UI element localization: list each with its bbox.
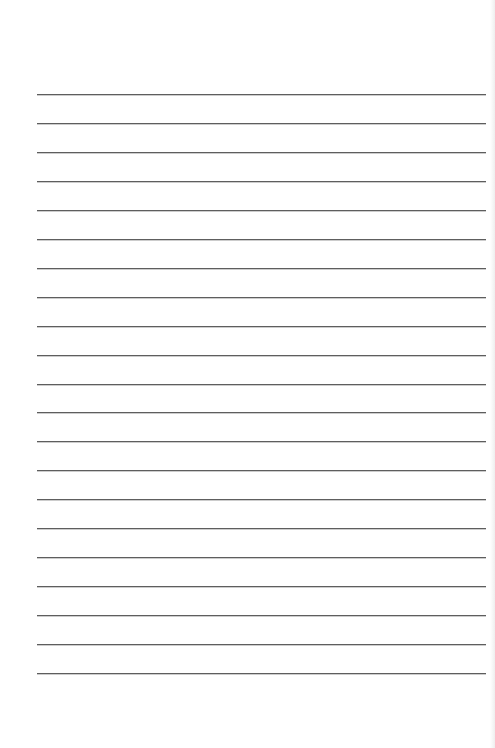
page-edge: [490, 0, 495, 748]
ruled-line: [37, 441, 486, 442]
ruled-line: [37, 152, 486, 153]
ruled-line: [37, 123, 486, 124]
ruled-line: [37, 615, 486, 616]
ruled-line: [37, 94, 486, 95]
ruled-line: [37, 528, 486, 529]
ruled-line: [37, 586, 486, 587]
ruled-line: [37, 673, 486, 674]
ruled-line: [37, 384, 486, 385]
ruled-line: [37, 181, 486, 182]
ruled-line: [37, 355, 486, 356]
ruled-line: [37, 499, 486, 500]
ruled-line: [37, 239, 486, 240]
ruled-line: [37, 557, 486, 558]
ruled-line: [37, 297, 486, 298]
ruled-line: [37, 644, 486, 645]
ruled-line: [37, 412, 486, 413]
ruled-line: [37, 470, 486, 471]
lined-paper-page: [0, 0, 495, 748]
ruled-line: [37, 210, 486, 211]
ruled-line: [37, 326, 486, 327]
ruled-line: [37, 268, 486, 269]
